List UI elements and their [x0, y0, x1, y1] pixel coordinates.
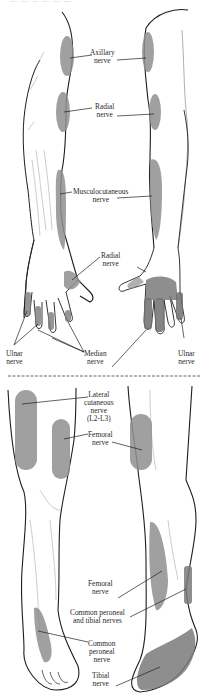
femoral-thigh-zone-left	[52, 419, 70, 479]
label-common-peroneal-nerve: Common peroneal nerve	[88, 640, 116, 664]
label-musculocutaneous-nerve: Musculocutaneous nerve	[73, 188, 128, 204]
label-common-peroneal-and-tibial-nerves: Common peroneal and tibial nerves	[70, 609, 125, 625]
nerve-distribution-figure: — — — — — —	[0, 0, 207, 696]
axillary-zone-right	[142, 32, 154, 72]
femoral-leg-zone	[149, 522, 168, 610]
axillary-zone-left	[60, 36, 74, 76]
label-tibial-nerve: Tibial nerve	[92, 672, 109, 688]
left-arm-posterior	[23, 12, 93, 333]
femoral-thigh-zone-right	[130, 414, 152, 470]
label-femoral-nerve-leg: Femoral nerve	[88, 580, 113, 596]
palm-median-zone	[146, 276, 178, 300]
tibial-sole-zone	[137, 628, 195, 690]
lateral-cutaneous-zone	[15, 390, 37, 470]
label-lateral-cutaneous-nerve: Lateral cutaneous nerve (L2-L3)	[84, 391, 114, 423]
musculocutaneous-zone-left	[56, 170, 66, 250]
radial-hand-zone-right	[127, 276, 144, 289]
ulnar-finger-zone-left	[25, 292, 31, 316]
label-radial-nerve-hand: Radial nerve	[101, 252, 120, 268]
label-median-nerve: Median nerve	[84, 350, 107, 366]
radial-arm-zone-left	[56, 92, 70, 132]
ulnar-finger-zone-right	[176, 292, 183, 320]
cropped-header-text: — — — — — —	[10, 0, 200, 2]
musculocutaneous-zone-right	[150, 159, 162, 240]
label-femoral-nerve-thigh: Femoral nerve	[88, 431, 113, 447]
right-arm-anterior	[119, 10, 188, 334]
median-finger-zone-left	[48, 312, 54, 330]
left-leg-anterior	[8, 388, 79, 690]
label-ulnar-nerve-right: Ulnar nerve	[178, 350, 195, 366]
label-axillary-nerve: Axillary nerve	[90, 49, 115, 65]
radial-hand-zone-left	[64, 271, 80, 290]
common-peroneal-zone	[34, 607, 52, 662]
radial-arm-zone-right	[149, 94, 161, 130]
label-ulnar-nerve-left: Ulnar nerve	[6, 350, 23, 366]
right-leg-medial	[128, 386, 198, 692]
peroneal-tibial-zone	[184, 566, 192, 604]
label-radial-nerve-arm: Radial nerve	[95, 103, 114, 119]
